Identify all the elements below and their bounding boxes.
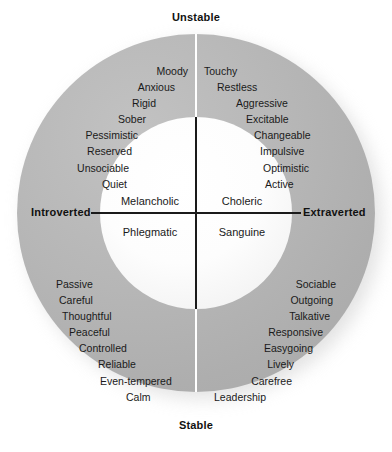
- axis-label-stable: Stable: [0, 419, 392, 431]
- trait-item: Moody: [28, 63, 188, 79]
- temperament-phlegmatic: Phlegmatic: [108, 226, 192, 238]
- trait-item: Touchy: [204, 63, 364, 79]
- trait-item: Pessimistic: [28, 127, 188, 143]
- trait-list-sanguine: Sociable Outgoing Talkative Responsive E…: [204, 276, 364, 405]
- trait-item: Sociable: [204, 276, 364, 292]
- trait-item: Rigid: [28, 95, 188, 111]
- trait-item: Leadership: [204, 389, 364, 405]
- axis-label-unstable: Unstable: [0, 11, 392, 23]
- trait-item: Talkative: [204, 308, 364, 324]
- trait-item: Impulsive: [204, 143, 364, 159]
- temperament-sanguine: Sanguine: [200, 226, 284, 238]
- trait-item: Controlled: [28, 340, 188, 356]
- trait-item: Calm: [28, 389, 188, 405]
- axis-label-extraverted: Extraverted: [303, 206, 366, 218]
- trait-item: Responsive: [204, 324, 364, 340]
- trait-item: Restless: [204, 79, 364, 95]
- trait-item: Quiet: [28, 176, 188, 192]
- trait-item: Sober: [28, 111, 188, 127]
- trait-item: Peaceful: [28, 324, 188, 340]
- trait-item: Outgoing: [204, 292, 364, 308]
- trait-list-melancholic: Moody Anxious Rigid Sober Pessimistic Re…: [28, 63, 188, 192]
- trait-item: Aggressive: [204, 95, 364, 111]
- trait-item: Even-tempered: [28, 373, 188, 389]
- trait-list-choleric: Touchy Restless Aggressive Excitable Cha…: [204, 63, 364, 192]
- axis-label-introverted: Introverted: [31, 206, 91, 218]
- trait-item: Careful: [28, 292, 188, 308]
- trait-item: Optimistic: [204, 160, 364, 176]
- horizontal-axis-stub-left: [91, 212, 103, 214]
- trait-item: Carefree: [204, 373, 364, 389]
- trait-item: Excitable: [204, 111, 364, 127]
- trait-item: Reliable: [28, 356, 188, 372]
- trait-item: Easygoing: [204, 340, 364, 356]
- trait-item: Anxious: [28, 79, 188, 95]
- personality-circumplex-diagram: Unstable Stable Introverted Extraverted …: [0, 0, 392, 452]
- temperament-choleric: Choleric: [200, 195, 284, 207]
- horizontal-axis-line: [100, 212, 292, 214]
- trait-item: Unsociable: [28, 160, 188, 176]
- horizontal-axis-stub-right: [289, 212, 301, 214]
- trait-item: Reserved: [28, 143, 188, 159]
- trait-item: Passive: [28, 276, 188, 292]
- trait-item: Active: [204, 176, 364, 192]
- trait-item: Changeable: [204, 127, 364, 143]
- trait-list-phlegmatic: Passive Careful Thoughtful Peaceful Cont…: [28, 276, 188, 405]
- temperament-melancholic: Melancholic: [108, 195, 192, 207]
- trait-item: Thoughtful: [28, 308, 188, 324]
- trait-item: Lively: [204, 356, 364, 372]
